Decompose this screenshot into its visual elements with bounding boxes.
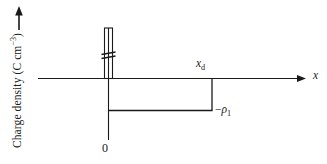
- charge-density-figure: Charge density (C cm−3) xd −ρ1 0 x: [0, 0, 327, 164]
- depletion-charge-block: [109, 79, 213, 111]
- x-depletion-subscript: d: [201, 63, 205, 72]
- x-axis-label: x: [313, 69, 318, 81]
- y-axis-label-tail: ): [11, 33, 23, 37]
- x-axis-label-text: x: [313, 69, 318, 81]
- x-axis-line: [38, 75, 306, 82]
- rho-subscript: 1: [227, 109, 231, 118]
- rho-level-label: −ρ1: [215, 103, 231, 115]
- y-axis-label-exponent: −3: [9, 37, 18, 46]
- y-axis-label: Charge density (C cm−3): [11, 36, 27, 148]
- up-arrow-icon: [15, 6, 23, 30]
- x-depletion-label: xd: [196, 57, 205, 69]
- y-axis-label-text: Charge density (C cm: [11, 46, 23, 148]
- figure-canvas: [0, 0, 327, 164]
- origin-label: 0: [102, 141, 108, 156]
